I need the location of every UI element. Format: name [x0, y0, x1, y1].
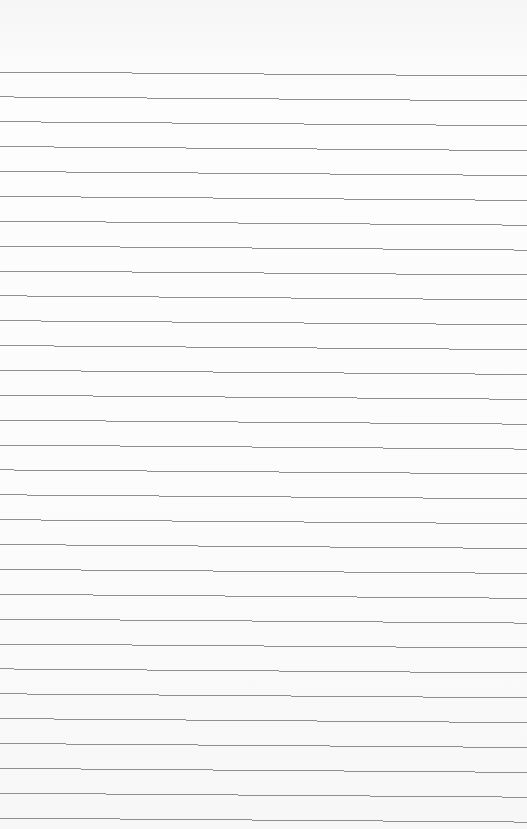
- ruled-line: [0, 122, 527, 126]
- ruled-line: [0, 321, 527, 325]
- ruled-line: [0, 520, 527, 524]
- ruled-line: [0, 346, 527, 350]
- ruled-line: [0, 395, 527, 399]
- ruled-line: [0, 594, 527, 598]
- ruled-line: [0, 271, 527, 275]
- ruled-line: [0, 420, 527, 424]
- ruled-lines: [0, 0, 527, 829]
- lined-paper-sheet: [0, 0, 527, 829]
- ruled-line: [0, 147, 527, 151]
- ruled-line: [0, 296, 527, 300]
- ruled-line: [0, 569, 527, 573]
- ruled-line: [0, 793, 527, 797]
- ruled-line: [0, 445, 527, 449]
- ruled-line: [0, 72, 527, 76]
- ruled-line: [0, 719, 527, 723]
- ruled-line: [0, 768, 527, 772]
- ruled-line: [0, 196, 527, 200]
- ruled-line: [0, 495, 527, 499]
- ruled-line: [0, 644, 527, 648]
- ruled-line: [0, 818, 527, 822]
- ruled-line: [0, 246, 527, 250]
- ruled-line: [0, 172, 527, 176]
- ruled-line: [0, 744, 527, 748]
- ruled-line: [0, 370, 527, 374]
- ruled-line: [0, 619, 527, 623]
- ruled-line: [0, 694, 527, 698]
- ruled-line: [0, 669, 527, 673]
- ruled-line: [0, 221, 527, 225]
- ruled-line: [0, 545, 527, 549]
- ruled-line: [0, 470, 527, 474]
- ruled-line: [0, 97, 527, 101]
